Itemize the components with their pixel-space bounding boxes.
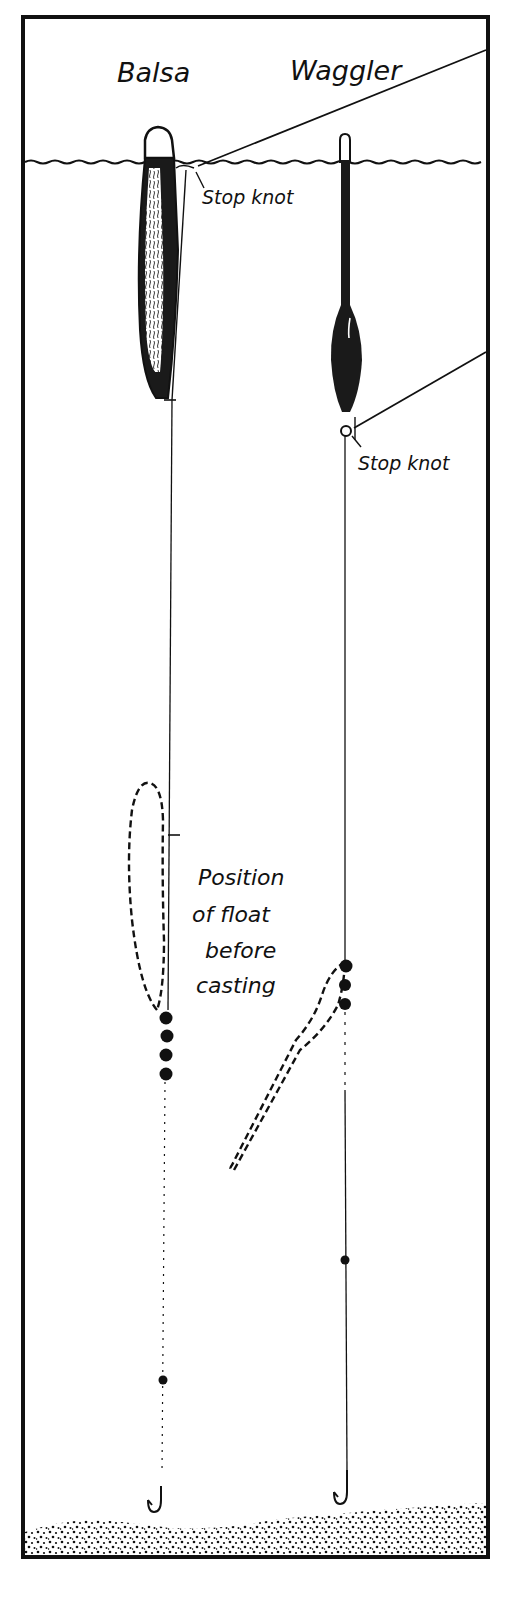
waggler-hook-icon xyxy=(334,1470,347,1504)
balsa-float-texture xyxy=(145,168,163,372)
waggler-lower-shot xyxy=(341,1256,350,1265)
waggler-float-bulb xyxy=(331,305,362,412)
balsa-float-tip xyxy=(145,127,174,158)
balsa-stop-knot-label: Stop knot xyxy=(202,186,295,208)
balsa-line-under xyxy=(168,400,172,1010)
riverbed-gravel xyxy=(25,1503,486,1555)
position-label-line1: Position xyxy=(198,865,284,890)
waggler-float xyxy=(331,134,362,436)
waggler-label: Waggler xyxy=(290,55,403,86)
balsa-hook-trace xyxy=(162,1082,165,1472)
waggler-float-eye xyxy=(341,426,351,436)
balsa-shot-group xyxy=(160,1012,174,1081)
waggler-float-tip xyxy=(340,134,350,162)
position-label-line2: of float xyxy=(192,902,271,927)
waggler-float-stem xyxy=(341,160,350,306)
waggler-stop-knot-pointer xyxy=(352,436,361,447)
position-label-line4: casting xyxy=(196,973,276,998)
float-rig-diagram: Balsa Waggler Stop knot xyxy=(0,0,528,1602)
balsa-line-loop xyxy=(176,166,194,169)
waggler-main-line xyxy=(354,352,486,428)
balsa-lower-shot xyxy=(159,1376,168,1385)
balsa-float xyxy=(139,127,178,398)
balsa-hook-icon xyxy=(148,1486,161,1512)
waggler-hook-line xyxy=(345,1090,347,1470)
balsa-label: Balsa xyxy=(117,57,190,88)
position-label-line3: before xyxy=(205,938,276,963)
water-surface xyxy=(25,161,481,164)
balsa-float-before-casting-outline xyxy=(129,783,164,1010)
waggler-shot-group xyxy=(339,960,353,1011)
waggler-stop-knot-label: Stop knot xyxy=(358,452,451,474)
diagram-frame xyxy=(23,17,488,1557)
